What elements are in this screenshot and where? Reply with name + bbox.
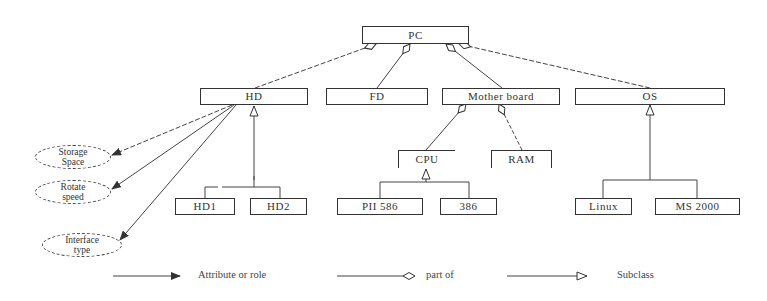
- node-ms2000: MS 2000: [655, 198, 740, 215]
- attribute-rotate-speed: Rotatespeed: [35, 180, 111, 204]
- node-cpu: CPU: [398, 150, 455, 168]
- attribute-interface-type: Interfacetype: [42, 233, 122, 257]
- node-motherboard: Mother board: [442, 88, 560, 105]
- legend-attribute-label: Attribute or role: [198, 269, 266, 280]
- node-label: CPU: [416, 153, 439, 165]
- attribute-line: Storage: [58, 147, 87, 157]
- node-hd: HD: [200, 88, 308, 105]
- node-linux: Linux: [575, 198, 632, 215]
- node-label: MS 2000: [675, 200, 719, 212]
- part-of-edges-pc: [255, 44, 650, 88]
- node-label: PC: [408, 29, 422, 41]
- part-of-edges-motherboard: [426, 104, 522, 150]
- node-ram: RAM: [491, 150, 552, 168]
- attribute-line: type: [74, 245, 90, 255]
- node-label: OS: [642, 90, 657, 102]
- attribute-line: Interface: [65, 235, 99, 245]
- node-label: 386: [460, 200, 478, 212]
- node-os: OS: [575, 88, 725, 105]
- diagram-edges: [0, 0, 767, 301]
- attribute-storage-space: StorageSpace: [35, 145, 111, 169]
- node-label: HD1: [194, 200, 217, 212]
- node-label: RAM: [508, 153, 535, 165]
- node-hd1: HD1: [175, 198, 235, 215]
- subclass-edges-os: [603, 105, 697, 198]
- node-label: Mother board: [468, 90, 534, 102]
- attribute-line: Space: [62, 157, 85, 167]
- node-label: PII 586: [362, 200, 398, 212]
- node-pc: PC: [362, 26, 469, 44]
- subclass-edges-cpu: [380, 169, 469, 198]
- attribute-line: Rotate: [61, 182, 86, 192]
- node-label: HD2: [267, 200, 290, 212]
- attribute-edges-hd: [112, 105, 236, 240]
- node-label: HD: [246, 90, 263, 102]
- attribute-line: speed: [62, 192, 84, 202]
- node-label: FD: [369, 90, 384, 102]
- node-pii586: PII 586: [337, 198, 423, 215]
- legend-part-of-label: part of: [426, 269, 454, 280]
- node-fd: FD: [326, 88, 428, 105]
- node-hd2: HD2: [250, 198, 307, 215]
- subclass-edges-hd: [205, 106, 280, 198]
- node-label: Linux: [589, 200, 618, 212]
- node-386: 386: [440, 198, 497, 215]
- legend-subclass-label: Subclass: [617, 269, 654, 280]
